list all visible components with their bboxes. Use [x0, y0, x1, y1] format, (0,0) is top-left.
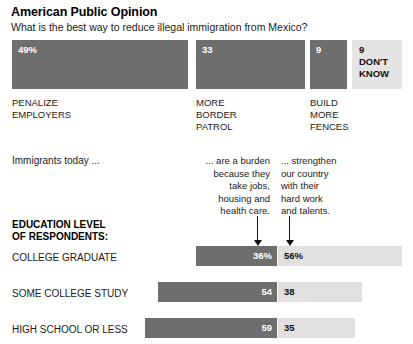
education-row-label-college-graduate: COLLEGE GRADUATE — [12, 252, 117, 263]
top-bar-value-0: 49% — [18, 44, 37, 55]
top-bar-build-more-fences: 9 — [310, 40, 347, 89]
education-bar-burden-some-college-study: 54 — [158, 282, 277, 302]
education-value-burden-2: 59 — [261, 322, 272, 333]
education-row-label-some-college-study: SOME COLLEGE STUDY — [12, 288, 128, 299]
category-label-build-more-fences: BUILD MORE FENCES — [310, 97, 349, 134]
education-value-burden-0: 36% — [253, 250, 272, 261]
top-bar-value-1: 33 — [202, 44, 213, 55]
education-bar-burden-high-school-or-less: 59 — [145, 318, 277, 338]
top-bar-penalize-employers: 49% — [12, 40, 188, 89]
category-label-more-border-patrol: MORE BORDER PATROL — [196, 97, 237, 134]
education-row-label-high-school-or-less: HIGH SCHOOL OR LESS — [12, 324, 128, 335]
education-value-strengthen-1: 38 — [284, 286, 295, 297]
top-bar-chart: 49% 33 9 9 DON'T KNOW — [0, 40, 413, 89]
immigrants-prompt: Immigrants today ... — [12, 155, 100, 166]
education-bar-strengthen-some-college-study: 38 — [278, 282, 362, 302]
education-bar-strengthen-college-graduate: 56% — [278, 246, 402, 266]
legend-option-burden: ... are a burden because they take jobs,… — [186, 155, 270, 218]
category-label-penalize-employers: PENALIZE EMPLOYERS — [12, 97, 71, 121]
infographic-root: American Public Opinion What is the best… — [0, 0, 413, 344]
poll-question: What is the best way to reduce illegal i… — [11, 21, 307, 33]
page-title: American Public Opinion — [11, 5, 157, 19]
education-level-heading: EDUCATION LEVEL OF RESPONDENTS: — [12, 219, 108, 244]
education-bar-burden-college-graduate: 36% — [196, 246, 277, 266]
education-value-strengthen-0: 56% — [284, 250, 303, 261]
dont-know-label: DON'T KNOW — [359, 56, 389, 79]
legend-option-strengthen: ... strengthen our country with their ha… — [281, 155, 373, 218]
top-bar-more-border-patrol: 33 — [196, 40, 305, 89]
education-value-burden-1: 54 — [261, 286, 272, 297]
education-bar-strengthen-high-school-or-less: 35 — [278, 318, 355, 338]
education-value-strengthen-2: 35 — [284, 322, 295, 333]
top-bar-dont-know: 9 DON'T KNOW — [352, 40, 402, 89]
dont-know-value: 9 — [359, 44, 364, 55]
top-bar-value-2: 9 — [316, 44, 321, 55]
